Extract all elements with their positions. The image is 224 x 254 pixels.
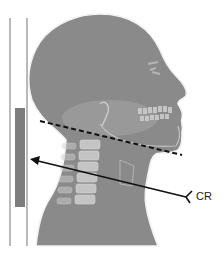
central-ray-label: CR	[196, 191, 212, 202]
head-neck-silhouette	[29, 14, 187, 246]
positioning-diagram: CR	[0, 0, 224, 254]
detector-strip	[15, 108, 25, 207]
arrowhead-icon	[30, 156, 40, 165]
arrow-tail-icon	[186, 191, 192, 203]
diagram-canvas	[0, 0, 224, 254]
